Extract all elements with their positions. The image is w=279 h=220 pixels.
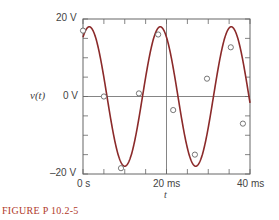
y-tick-label-bottom: –20 V	[50, 167, 76, 178]
y-tick-label-top: 20 V	[56, 12, 77, 23]
data-point-marker	[228, 45, 233, 50]
x-axis-label: t	[164, 189, 167, 200]
data-point-marker	[204, 76, 209, 81]
data-point-marker	[171, 107, 176, 112]
data-point-marker	[192, 152, 197, 157]
x-tick-label-right: 40 ms	[237, 178, 264, 189]
data-point-marker	[136, 91, 141, 96]
x-tick-label-mid: 20 ms	[153, 178, 180, 189]
data-point-marker	[156, 32, 161, 37]
figure-caption: FIGURE P 10.2-5	[2, 205, 79, 216]
y-tick-label-zero: 0 V	[63, 90, 78, 101]
x-tick-label-left: 0 s	[77, 178, 90, 189]
y-axis-label: v(t)	[30, 89, 45, 101]
caption-prefix: FIGURE	[2, 205, 40, 216]
data-point-marker	[118, 166, 123, 171]
caption-id: P 10.2-5	[43, 205, 79, 216]
data-point-marker	[101, 94, 106, 99]
data-point-marker	[240, 121, 245, 126]
data-point-marker	[80, 28, 85, 33]
